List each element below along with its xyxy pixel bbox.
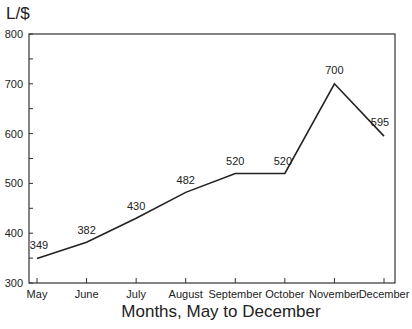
- x-tick-label: November: [309, 288, 360, 300]
- data-label: 700: [325, 64, 343, 76]
- data-label: 595: [371, 116, 389, 128]
- x-tick-label: August: [169, 288, 203, 300]
- data-label: 482: [177, 174, 195, 186]
- data-label: 520: [274, 155, 292, 167]
- x-tick-label: June: [75, 288, 99, 300]
- data-label: 382: [77, 224, 95, 236]
- x-tick-label: December: [359, 288, 410, 300]
- x-tick-label: September: [208, 288, 262, 300]
- x-tick-label: July: [126, 288, 146, 300]
- y-tick-label: 800: [5, 28, 23, 40]
- data-label: 430: [127, 200, 145, 212]
- y-tick-label: 400: [5, 227, 23, 239]
- y-tick-label: 600: [5, 128, 23, 140]
- y-tick-label: 700: [5, 78, 23, 90]
- x-axis-title: Months, May to December: [0, 302, 412, 322]
- x-tick-label: May: [27, 288, 48, 300]
- line-chart: 300400500600700800MayJuneJulyAugustSepte…: [0, 0, 412, 329]
- x-tick-label: October: [265, 288, 304, 300]
- data-label: 349: [30, 239, 48, 251]
- data-label: 520: [226, 155, 244, 167]
- y-tick-label: 300: [5, 277, 23, 289]
- y-tick-label: 500: [5, 177, 23, 189]
